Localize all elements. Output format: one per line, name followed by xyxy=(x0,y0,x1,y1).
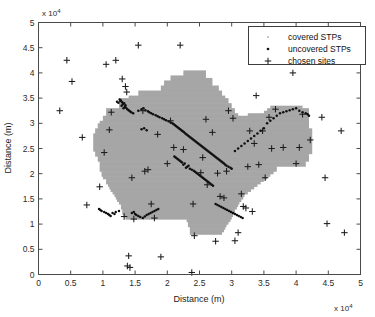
uncovered-stp-point xyxy=(152,113,155,116)
x-tick-label: 2.5 xyxy=(194,278,206,288)
uncovered-stp-point xyxy=(308,114,311,117)
uncovered-stp-point xyxy=(118,98,121,101)
uncovered-stp-point xyxy=(250,137,253,140)
legend-entry-label: uncovered STPs xyxy=(288,44,351,54)
uncovered-stp-point xyxy=(266,122,269,125)
x-tick-label: 3 xyxy=(229,278,234,288)
legend-dot-icon xyxy=(267,48,270,51)
x-tick-label: 2 xyxy=(165,278,170,288)
uncovered-stp-point xyxy=(115,211,118,214)
uncovered-stp-point xyxy=(132,112,135,115)
y-tick-label: 2 xyxy=(30,169,35,179)
y-tick-label: 4 xyxy=(30,68,35,78)
x-tick-label: 0.5 xyxy=(65,278,77,288)
uncovered-stp-point xyxy=(279,112,282,115)
uncovered-stp-point xyxy=(256,132,259,135)
uncovered-stp-point xyxy=(292,108,295,111)
uncovered-stp-point xyxy=(140,128,143,131)
y-tick-label: 0 xyxy=(30,270,35,280)
uncovered-stp-point xyxy=(139,216,142,219)
uncovered-stp-point xyxy=(282,111,285,114)
y-tick-label: 5 xyxy=(30,18,35,28)
y-tick-label: 4.5 xyxy=(23,43,35,53)
y-tick-label: 2.5 xyxy=(23,144,35,154)
legend-entry-label: covered STPs xyxy=(288,32,341,42)
uncovered-stp-point xyxy=(122,107,125,110)
uncovered-stp-point xyxy=(285,110,288,113)
uncovered-stp-point xyxy=(137,109,140,112)
x-tick-label: 4 xyxy=(294,278,299,288)
scatter-plot-figure: 00.511.522.533.544.55 00.511.522.533.544… xyxy=(0,0,375,317)
uncovered-stp-point xyxy=(165,119,168,122)
uncovered-stp-point xyxy=(230,167,233,170)
uncovered-stp-point xyxy=(234,150,237,153)
uncovered-stp-point xyxy=(243,142,246,145)
uncovered-stp-point xyxy=(103,211,106,214)
uncovered-stp-point xyxy=(240,145,243,148)
legend-small-dot-icon xyxy=(267,36,269,38)
y-tick-label: 1 xyxy=(30,219,35,229)
uncovered-stp-point xyxy=(109,215,112,218)
x-tick-label: 3.5 xyxy=(258,278,270,288)
y-tick-label: 3 xyxy=(30,118,35,128)
uncovered-stp-point xyxy=(187,164,190,167)
uncovered-stp-point xyxy=(237,147,240,150)
x-tick-label: 0 xyxy=(36,278,41,288)
legend-entry-label: chosen sites xyxy=(288,56,335,66)
uncovered-stp-point xyxy=(98,208,101,211)
uncovered-stp-point xyxy=(253,135,256,138)
y-tick-label: 1.5 xyxy=(23,194,35,204)
uncovered-stp-point xyxy=(158,116,161,119)
uncovered-stp-point xyxy=(118,210,121,213)
y-tick-label: 0.5 xyxy=(23,244,35,254)
uncovered-stp-point xyxy=(272,117,275,120)
uncovered-stp-point xyxy=(241,217,244,220)
uncovered-stp-point xyxy=(183,162,186,165)
uncovered-stp-point xyxy=(276,114,279,117)
plot-canvas: 00.511.522.533.544.55 00.511.522.533.544… xyxy=(0,0,375,317)
x-tick-label: 5 xyxy=(358,278,363,288)
uncovered-stp-point xyxy=(117,101,120,104)
uncovered-stp-point xyxy=(120,104,123,107)
uncovered-stp-point xyxy=(173,155,176,158)
x-tick-label: 1.5 xyxy=(129,278,141,288)
uncovered-stp-point xyxy=(212,185,215,188)
uncovered-stp-point xyxy=(247,140,250,143)
x-tick-label: 4.5 xyxy=(322,278,334,288)
uncovered-stp-point xyxy=(145,129,148,132)
uncovered-stp-point xyxy=(288,109,291,112)
uncovered-stp-point xyxy=(298,109,301,112)
legend: covered STPsuncovered STPschosen sites xyxy=(249,27,366,67)
uncovered-stp-point xyxy=(157,208,160,211)
x-axis-label: Distance (m) xyxy=(173,294,224,304)
x-tick-label: 1 xyxy=(101,278,106,288)
uncovered-stp-point xyxy=(133,211,136,214)
uncovered-stp-point xyxy=(295,107,298,110)
y-axis-label: Distance (m) xyxy=(3,122,13,173)
y-tick-label: 3.5 xyxy=(23,93,35,103)
uncovered-stp-point xyxy=(143,127,146,130)
